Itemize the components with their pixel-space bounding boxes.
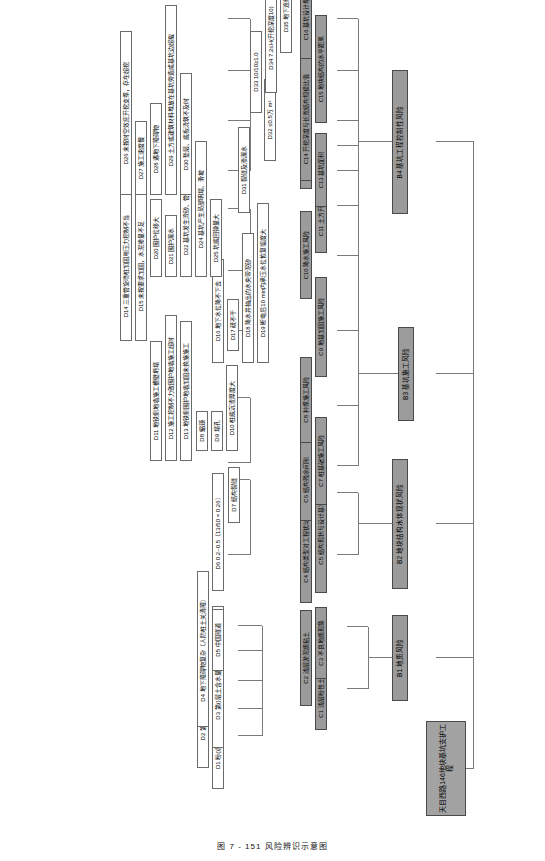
node-d18[interactable]: D18 降水井抽出的水夹带泥砂 xyxy=(242,233,254,363)
connector xyxy=(347,688,368,689)
node-d33[interactable]: D33 10/10≥1.0 xyxy=(250,31,262,113)
node-d30[interactable]: D30 垫层、底板浇筑不及时 xyxy=(180,73,192,195)
connector xyxy=(337,205,358,206)
connector xyxy=(337,405,358,406)
connector xyxy=(238,680,262,681)
node-c10[interactable]: C10 降水施工风险 xyxy=(300,211,312,299)
node-b1[interactable]: B1 地质风险 xyxy=(392,615,408,701)
connector xyxy=(238,708,262,709)
connector xyxy=(337,18,358,19)
connector xyxy=(238,650,262,651)
diagram-rotation-wrapper: 天目西路146地块基坑支护工程 B1 地质风险 B2 地块结构水体现状风险 B3… xyxy=(0,0,545,861)
node-d5[interactable]: D5 中国隧道 xyxy=(212,609,224,671)
node-d27[interactable]: D27 施工速度慢 xyxy=(135,121,147,195)
node-c14[interactable]: C14 开挖深度与长宽结构规模比值 xyxy=(300,57,312,181)
node-d12[interactable]: D12 施工控制不力致围护地墙施工超时 xyxy=(165,315,177,461)
node-d10[interactable]: D10 桩底沉渣厚度大 xyxy=(226,365,238,451)
node-d17[interactable]: D17 疏不干 xyxy=(227,299,239,351)
node-d21[interactable]: D21 围护漏水 xyxy=(165,215,177,277)
connector xyxy=(358,523,392,524)
node-d7[interactable]: D7 结构裂缝 xyxy=(228,467,240,523)
connector xyxy=(436,373,473,374)
node-root[interactable]: 天目西路146地块基坑支护工程 xyxy=(426,721,466,816)
node-d13[interactable]: D13 地铁侧围护地墙加固未换施施工 xyxy=(180,321,192,461)
node-d20[interactable]: D20 围护位移大 xyxy=(150,199,162,277)
connector xyxy=(337,70,358,71)
node-d29[interactable]: D29 土方或建筑材料堆放在基坑旁造成基坑边超载 xyxy=(165,5,177,195)
connector xyxy=(250,480,251,555)
node-c7[interactable]: C7 桩基础施工风险 xyxy=(315,417,327,505)
connector xyxy=(337,465,358,466)
connector xyxy=(337,120,358,121)
node-b3[interactable]: B3 基坑施工风险 xyxy=(398,327,414,421)
connector xyxy=(228,554,250,555)
connector xyxy=(337,330,358,331)
connector xyxy=(238,625,262,626)
node-d31[interactable]: D31 裂缝及渗漏水 xyxy=(238,127,250,213)
connector xyxy=(228,120,250,121)
connector xyxy=(436,657,473,658)
connector xyxy=(337,255,358,256)
figure-caption: 图 7 - 151 风险辨识示意图 xyxy=(0,840,545,851)
connector xyxy=(337,170,358,171)
connector xyxy=(358,493,359,555)
connector xyxy=(228,18,250,19)
connector xyxy=(337,554,358,555)
connector xyxy=(262,626,263,736)
node-d19[interactable]: D19 断电后10 min内承压水位恢复幅度大 xyxy=(257,203,269,363)
connector xyxy=(337,492,358,493)
node-d14[interactable]: D14 三重管旋喷桩加固用压力控制不当 xyxy=(120,191,132,341)
node-c6[interactable]: C6 结构残余间隙 xyxy=(300,439,312,521)
node-c9[interactable]: C9 地基加固施工风险 xyxy=(315,277,327,377)
node-c15[interactable]: C15 地块结构的水平距离 xyxy=(315,15,327,123)
node-d6[interactable]: D6 0.2~0.5（13/50 = 0.26） xyxy=(212,473,224,591)
node-d4[interactable]: D4 地下障碍物复杂（人防桩土关清障） xyxy=(197,571,209,727)
node-c8[interactable]: C8 种撑施工风险 xyxy=(300,357,312,443)
connector xyxy=(337,145,358,146)
node-d24[interactable]: D24 基坑产生局部明塌、滑坡 xyxy=(195,141,207,277)
node-b4[interactable]: B4 基坑工程控制性风险 xyxy=(392,70,408,214)
node-d8[interactable]: D8 缩颈 xyxy=(196,411,208,451)
node-d25[interactable]: D25 坑底回弹量大 xyxy=(210,199,222,277)
connector xyxy=(358,141,392,142)
node-d11[interactable]: D11 地铁侧地墙施工槽壁坍塌 xyxy=(150,341,162,461)
risk-identification-tree: 天目西路146地块基坑支护工程 B1 地质风险 B2 地块结构水体现状风险 B3… xyxy=(0,0,545,861)
connector xyxy=(228,462,250,463)
node-c16[interactable]: C16 基坑设计埋深 xyxy=(300,0,312,59)
node-b2[interactable]: B2 地块结构水体现状风险 xyxy=(392,459,408,589)
connector xyxy=(473,141,474,769)
node-d26[interactable]: D26 未按时空效应开挖支撑，存在超挖 xyxy=(120,31,132,195)
connector xyxy=(238,735,262,736)
connector xyxy=(358,146,359,466)
connector xyxy=(368,627,369,689)
node-c3[interactable]: C3 不良地质现象 xyxy=(315,607,327,679)
node-c13[interactable]: C13 基坑面积 xyxy=(315,133,327,207)
connector xyxy=(368,657,392,658)
connector xyxy=(250,398,251,463)
connector xyxy=(228,70,250,71)
connector xyxy=(436,523,473,524)
connector xyxy=(436,141,473,142)
node-d35[interactable]: D35 地下连续墙围护 xyxy=(280,0,292,53)
connector xyxy=(358,19,359,171)
node-c2[interactable]: C2 浅层淤泥质粘土 xyxy=(300,610,312,706)
node-d9[interactable]: D9 塌孔 xyxy=(211,411,223,451)
connector xyxy=(358,373,398,374)
node-d15[interactable]: D15 未按要求加固，水泥掺量不足 xyxy=(135,191,147,341)
connector xyxy=(347,626,368,627)
node-d34[interactable]: D34 7.2≤H(开挖深度10) xyxy=(265,0,277,93)
node-d28[interactable]: D28 遇地下障碍物 xyxy=(150,103,162,195)
